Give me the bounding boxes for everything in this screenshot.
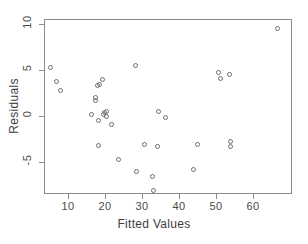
y-axis-tick-label: 5 [21,57,33,79]
x-axis-tick [253,194,254,199]
x-axis-tick-label: 10 [53,200,83,212]
x-axis-tick [68,194,69,199]
y-axis-tick-label: 10 [21,11,33,33]
x-axis-tick-label: 60 [238,200,268,212]
y-axis-tick-label: 0 [21,103,33,125]
x-axis-tick-label: 50 [201,200,231,212]
y-axis-tick [39,162,44,163]
x-axis-tick [179,194,180,199]
y-axis-tick [39,70,44,71]
plot-area-frame [44,19,292,194]
x-axis-tick-label: 30 [127,200,157,212]
x-axis-tick [105,194,106,199]
y-axis-tick-label: -5 [21,149,33,171]
scatter-plot-figure: 1020304050601050-5 Fitted Values Residua… [0,0,308,244]
x-axis-tick-label: 20 [90,200,120,212]
x-axis-label: Fitted Values [0,217,308,231]
x-axis-tick [142,194,143,199]
y-axis-label: Residuals [7,6,21,206]
y-axis-tick [39,24,44,25]
x-axis-tick [216,194,217,199]
y-axis-tick [39,116,44,117]
x-axis-tick-label: 40 [164,200,194,212]
